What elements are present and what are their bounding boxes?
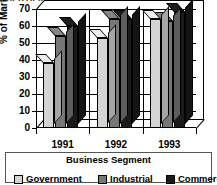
y-tick	[32, 43, 36, 44]
bar-front-face	[150, 19, 161, 128]
group-separator	[89, 9, 90, 128]
bar-side-face	[185, 0, 193, 123]
y-tick	[32, 60, 36, 61]
legend-label: Government	[26, 173, 82, 184]
legend: Business Segment GovernmentIndustrialCom…	[5, 152, 212, 183]
legend-item-industrial[interactable]: Industrial	[98, 169, 153, 181]
bar-side-face	[54, 50, 62, 124]
bar-side-face	[66, 23, 74, 124]
bar-side-face	[78, 13, 86, 124]
x-axis-label-1992: 1992	[89, 139, 142, 150]
bar-front-face	[97, 38, 108, 128]
bar-side-face	[108, 24, 116, 123]
y-axis-tick-label: 20	[0, 89, 30, 99]
bar-side-face	[132, 6, 140, 124]
x-tick	[196, 128, 197, 134]
x-axis-label-1991: 1991	[36, 139, 89, 150]
frame-right-vertical	[203, 0, 204, 119]
legend-title: Business Segment	[6, 154, 211, 165]
y-axis-tick-label: 0	[0, 123, 30, 133]
frame-top-back	[44, 0, 204, 1]
bar-side-face	[120, 6, 128, 124]
y-tick	[32, 94, 36, 95]
bar-side-face	[173, 7, 181, 123]
bar-front-face	[43, 63, 54, 128]
x-tick	[36, 128, 37, 134]
frame-depth-bottomright	[196, 119, 205, 129]
bar-government-1993	[150, 19, 161, 128]
y-axis-tick-label: 40	[0, 55, 30, 65]
legend-swatch-industrial	[98, 175, 107, 184]
y-axis-tick-label: 30	[0, 72, 30, 82]
y-tick	[32, 9, 36, 10]
bar-side-face	[161, 6, 169, 124]
legend-label: Commercial	[178, 173, 217, 184]
y-tick	[32, 26, 36, 27]
y-tick	[32, 111, 36, 112]
y-tick	[32, 77, 36, 78]
legend-items: GovernmentIndustrialCommercial	[6, 168, 211, 182]
legend-label: Industrial	[110, 173, 153, 184]
x-tick	[143, 128, 144, 134]
bar-government-1992	[97, 38, 108, 128]
chart-container: CERTIFIED MARKET 010203040506070 % of Ma…	[0, 0, 217, 185]
x-tick	[89, 128, 90, 134]
legend-item-government[interactable]: Government	[14, 169, 82, 181]
legend-swatch-commercial	[166, 175, 175, 184]
x-axis-label-1993: 1993	[143, 139, 196, 150]
bar-government-1991	[43, 63, 54, 128]
y-axis-tick-label: 10	[0, 106, 30, 116]
group-separator	[143, 9, 144, 128]
legend-swatch-government	[14, 175, 23, 184]
legend-item-commercial[interactable]: Commercial	[166, 169, 217, 181]
y-axis-title: % of Market	[0, 0, 9, 44]
plot-area	[36, 9, 204, 137]
